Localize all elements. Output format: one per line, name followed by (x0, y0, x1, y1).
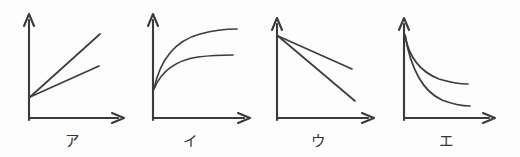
panel-e: エ (390, 0, 520, 157)
curve-a-steep (30, 34, 100, 97)
panel-label-u: ウ (311, 133, 326, 149)
curve-a-shallow (30, 66, 99, 97)
curve-i-upper (154, 29, 237, 89)
panel-label-a: ア (65, 133, 80, 149)
panel-i: イ (130, 0, 260, 157)
panel-label-i: イ (183, 133, 198, 149)
graph-options-figure: ア イ ウ エ (0, 0, 520, 157)
panel-label-e: エ (439, 133, 454, 149)
panel-u: ウ (260, 0, 390, 157)
panel-a: ア (0, 0, 130, 157)
curve-e-upper (405, 35, 468, 84)
curve-e-lower (405, 35, 470, 106)
curve-u-shallow (278, 36, 352, 69)
curve-u-steep (278, 36, 355, 101)
